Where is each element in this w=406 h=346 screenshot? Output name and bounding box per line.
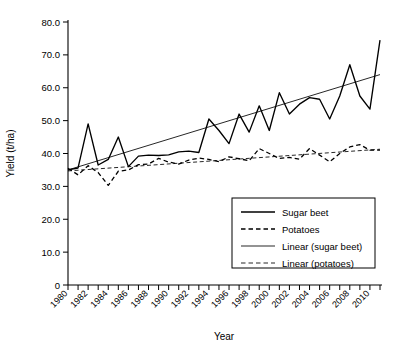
chart-container: 80.070.060.050.040.030.020.010.00 198019…	[0, 0, 406, 346]
x-tick-label: 1982	[68, 288, 89, 309]
legend-label: Linear (sugar beet)	[282, 241, 362, 252]
series-line-sugar-beet	[68, 40, 380, 170]
y-tick-label: 20.0	[42, 214, 61, 225]
x-tick-label: 2000	[249, 288, 270, 309]
y-tick-label: 10.0	[42, 247, 61, 258]
y-axis-tick-labels: 80.070.060.050.040.030.020.010.00	[42, 17, 61, 291]
x-tick-label: 2006	[310, 288, 331, 309]
plot-area	[68, 40, 380, 185]
x-tick-label: 1998	[229, 288, 250, 309]
y-tick-label: 40.0	[42, 148, 61, 159]
legend-label: Potatoes	[282, 224, 320, 235]
y-axis-ticks	[63, 22, 68, 285]
y-tick-label: 60.0	[42, 82, 61, 93]
legend: Sugar beetPotatoesLinear (sugar beet)Lin…	[232, 198, 375, 269]
y-tick-label: 30.0	[42, 181, 61, 192]
y-axis-title: Yield (t/ha)	[5, 130, 16, 178]
legend-label: Linear (potatoes)	[282, 258, 354, 269]
y-tick-label: 70.0	[42, 49, 61, 60]
y-tick-label: 0	[55, 280, 60, 291]
x-tick-label: 1984	[88, 288, 109, 309]
yield-line-chart: 80.070.060.050.040.030.020.010.00 198019…	[0, 0, 406, 346]
x-tick-label: 2002	[270, 288, 291, 309]
y-tick-label: 80.0	[42, 17, 61, 28]
trendline-sugar-beet	[68, 75, 380, 170]
y-tick-label: 50.0	[42, 115, 61, 126]
x-tick-label: 1992	[169, 288, 190, 309]
x-tick-label: 1980	[48, 288, 69, 309]
x-tick-label: 2004	[290, 288, 311, 309]
x-tick-label: 1996	[209, 288, 230, 309]
x-tick-label: 1988	[129, 288, 150, 309]
trendline-potatoes	[68, 149, 380, 171]
x-tick-label: 2008	[330, 288, 351, 309]
x-axis-group: 1980198219841986198819901992199419961998…	[48, 285, 382, 310]
series-line-potatoes	[68, 145, 380, 186]
x-tick-label: 2010	[350, 288, 371, 309]
x-tick-label: 1994	[189, 288, 210, 309]
x-tick-label: 1990	[149, 288, 170, 309]
x-tick-label: 1986	[109, 288, 130, 309]
y-axis-group: 80.070.060.050.040.030.020.010.00	[42, 17, 69, 291]
x-axis-title: Year	[214, 331, 235, 342]
legend-label: Sugar beet	[282, 207, 329, 218]
x-axis-tick-labels: 1980198219841986198819901992199419961998…	[48, 288, 371, 309]
